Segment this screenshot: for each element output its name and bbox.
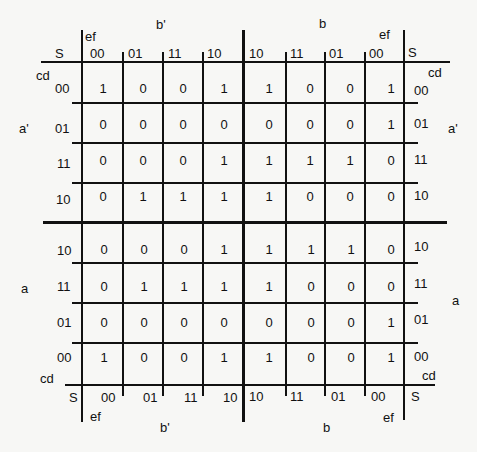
cell: 0	[86, 280, 122, 294]
cell: 1	[251, 243, 287, 257]
cell: 1	[126, 280, 162, 294]
cell: 0	[373, 243, 409, 257]
label-s-top-right: S	[408, 46, 417, 60]
cell: 0	[86, 243, 122, 257]
cell: 1	[373, 82, 409, 96]
col-code: 00	[101, 391, 115, 405]
cell: 1	[206, 280, 242, 294]
cell: 0	[293, 316, 329, 330]
cell: 0	[165, 118, 201, 132]
row-code: 10	[56, 193, 70, 207]
cell: 0	[332, 82, 368, 96]
label-ef-top-right: ef	[379, 28, 390, 42]
row-divider	[72, 302, 418, 304]
row-code: 00	[55, 82, 69, 96]
label-a-left: a	[21, 282, 28, 296]
cell: 1	[206, 154, 242, 168]
cell: 1	[125, 190, 161, 204]
left-border	[81, 30, 83, 422]
col-code: 10	[223, 391, 237, 405]
label-b-prime-bottom: b'	[160, 421, 170, 435]
cell: 0	[332, 118, 368, 132]
cell: 1	[86, 351, 122, 365]
cell: 1	[166, 280, 202, 294]
label-a-prime-left: a'	[19, 122, 29, 136]
cell: 0	[166, 351, 202, 365]
center-vertical-divider	[242, 30, 245, 422]
cell: 1	[373, 118, 409, 132]
col-code: 00	[371, 390, 385, 404]
cell: 1	[206, 243, 242, 257]
cell: 0	[86, 316, 122, 330]
label-ef-top-left: ef	[85, 30, 96, 44]
cell: 0	[373, 154, 409, 168]
row-divider	[72, 102, 418, 104]
cell: 1	[332, 154, 368, 168]
cell: 0	[332, 190, 368, 204]
col-code: 10	[249, 390, 263, 404]
col-code: 11	[184, 391, 198, 405]
row-code: 10	[57, 244, 71, 258]
cell: 1	[206, 82, 242, 96]
cell: 0	[251, 118, 287, 132]
row-code: 01	[414, 313, 428, 327]
cell: 0	[292, 118, 328, 132]
label-s-top-left: S	[55, 47, 64, 61]
row-code: 01	[55, 122, 69, 136]
cell: 0	[85, 118, 121, 132]
cell: 0	[206, 118, 242, 132]
col-code: 10	[249, 47, 263, 61]
row-code: 11	[57, 157, 71, 171]
col-code: 00	[90, 47, 104, 61]
cell: 0	[126, 316, 162, 330]
cell: 0	[166, 316, 202, 330]
row-code: 00	[414, 350, 428, 364]
row-code: 10	[414, 240, 428, 254]
cell: 0	[292, 190, 328, 204]
row-code: 11	[414, 153, 428, 167]
cell: 1	[206, 190, 242, 204]
label-cd-bottom-right: cd	[422, 369, 436, 383]
label-cd-bottom-left: cd	[40, 372, 54, 386]
row-divider	[72, 142, 418, 144]
cell: 0	[373, 280, 409, 294]
label-ef-bottom-right: ef	[383, 411, 394, 425]
cell: 0	[206, 316, 242, 330]
cell: 1	[251, 82, 287, 96]
col-code: 01	[128, 47, 142, 61]
cell: 1	[85, 82, 121, 96]
cell: 1	[251, 154, 287, 168]
cell: 0	[85, 190, 121, 204]
row-code: 11	[414, 277, 428, 291]
col-code: 11	[290, 47, 304, 61]
row-code: 00	[57, 351, 71, 365]
cell: 0	[293, 280, 329, 294]
cell: 0	[165, 154, 201, 168]
cell: 0	[166, 243, 202, 257]
cell: 0	[165, 82, 201, 96]
label-b-top: b	[319, 17, 326, 31]
cell: 1	[373, 316, 409, 330]
label-s-bottom-right: S	[411, 390, 420, 404]
cell: 1	[251, 280, 287, 294]
bottom-header-line	[65, 384, 435, 386]
col-code: 10	[207, 47, 221, 61]
karnaugh-map: b' b ef ef S S 00 01 11 10 10 11 01 00 c…	[0, 0, 477, 452]
label-b-bottom: b	[323, 421, 330, 435]
cell: 1	[251, 351, 287, 365]
top-header-line	[41, 61, 450, 63]
cell: 0	[333, 351, 369, 365]
cell: 1	[165, 190, 201, 204]
center-horizontal-divider	[43, 221, 447, 224]
row-code: 01	[414, 117, 428, 131]
row-code: 01	[57, 316, 71, 330]
cell: 1	[293, 243, 329, 257]
cell: 0	[125, 82, 161, 96]
label-ef-bottom-left: ef	[90, 410, 101, 424]
cell: 0	[333, 316, 369, 330]
cell: 1	[292, 154, 328, 168]
cell: 0	[251, 316, 287, 330]
row-code: 11	[57, 280, 71, 294]
row-divider	[72, 182, 418, 184]
row-code: 00	[414, 84, 428, 98]
